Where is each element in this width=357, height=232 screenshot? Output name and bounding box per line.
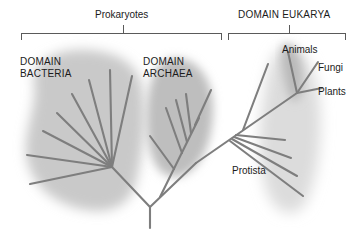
domain-label-archaea-line1: DOMAIN xyxy=(143,56,184,67)
domain-label-archaea-line2: ARCHAEA xyxy=(143,68,193,79)
figure-canvas: Prokaryotes DOMAIN EUKARYA DOMAIN BACTER… xyxy=(0,0,357,232)
archaea-clade xyxy=(150,90,211,197)
tree-branch-layer xyxy=(0,0,357,232)
protista-fan xyxy=(230,64,303,196)
eukarya-crown xyxy=(288,52,322,93)
taxon-label-fungi: Fungi xyxy=(318,62,343,73)
bacteria-fan xyxy=(27,70,132,184)
bracket-label-domain-eukarya: DOMAIN EUKARYA xyxy=(238,9,330,20)
trunk-bacteria xyxy=(112,167,150,207)
taxon-label-protista: Protista xyxy=(232,165,266,176)
domain-label-bacteria-line2: BACTERIA xyxy=(20,68,72,79)
domain-label-bacteria-line1: DOMAIN xyxy=(20,56,61,67)
taxon-label-plants: Plants xyxy=(318,86,346,97)
taxon-label-animals: Animals xyxy=(282,44,318,55)
bracket-label-prokaryotes: Prokaryotes xyxy=(95,9,148,20)
